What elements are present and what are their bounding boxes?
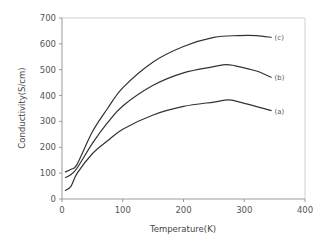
y-tick-label: 400 (40, 91, 56, 101)
y-axis-ticks: 0100200300400500600700 (40, 13, 62, 204)
x-tick-label: 400 (297, 205, 313, 215)
curve-label: (a) (275, 108, 285, 116)
y-axis-title: Conductivity(S/cm) (17, 67, 27, 148)
conductivity-chart: 0100200300400500600700 0100200300400 (c)… (0, 0, 328, 249)
y-tick-label: 300 (40, 116, 56, 126)
y-tick-label: 200 (40, 142, 56, 152)
y-tick-label: 600 (40, 39, 56, 49)
plot-frame (62, 18, 305, 199)
data-curves (65, 35, 272, 190)
y-tick-label: 500 (40, 65, 56, 75)
curve-labels: (c)(b)(a) (275, 34, 285, 115)
x-tick-label: 100 (115, 205, 131, 215)
curve-label: (c) (275, 34, 285, 42)
x-axis-title: Temperature(K) (149, 224, 216, 234)
y-tick-label: 100 (40, 168, 56, 178)
curve-a (65, 100, 272, 191)
y-tick-label: 700 (40, 13, 56, 23)
curve-label: (b) (275, 74, 285, 82)
curve-b (65, 65, 272, 178)
x-tick-label: 0 (59, 205, 64, 215)
curve-c (65, 35, 272, 172)
x-tick-label: 300 (236, 205, 252, 215)
x-axis-ticks: 0100200300400 (59, 199, 313, 215)
x-tick-label: 200 (175, 205, 191, 215)
y-tick-label: 0 (51, 194, 56, 204)
